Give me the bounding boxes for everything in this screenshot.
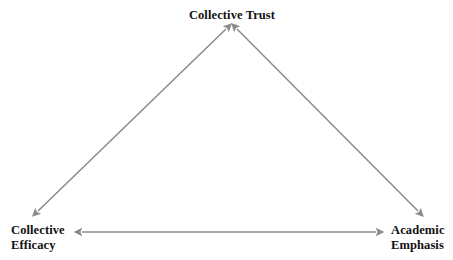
node-label-academic-emphasis: Academic Emphasis <box>391 223 453 252</box>
arrow-layer <box>0 0 453 260</box>
connector-trust-academic <box>237 29 418 211</box>
node-label-collective-efficacy: Collective Efficacy <box>11 223 89 252</box>
connector-efficacy-trust <box>38 29 226 211</box>
relationship-diagram: Collective Trust Collective Efficacy Aca… <box>0 0 453 260</box>
node-label-collective-trust: Collective Trust <box>186 8 278 23</box>
